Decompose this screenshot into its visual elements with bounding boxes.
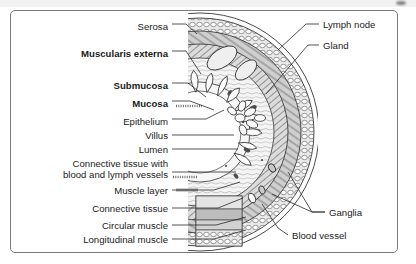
label-gland: Gland: [323, 40, 349, 51]
label-ganglia: Ganglia: [329, 207, 362, 218]
label-blood-vessel: Blood vessel: [292, 230, 346, 241]
label-muscle-layer: Muscle layer: [114, 185, 168, 196]
label-epithelium: Epithelium: [123, 116, 168, 127]
label-connective-tissue-vessels-line1: Connective tissue with: [73, 158, 168, 169]
label-submucosa: Submucosa: [114, 80, 168, 91]
lumen-area: [159, 91, 241, 173]
cutaway-panel: [196, 196, 242, 246]
label-longitudinal-muscle: Longitudinal muscle: [83, 234, 168, 245]
label-lumen: Lumen: [139, 144, 168, 155]
label-connective-tissue: Connective tissue: [92, 203, 168, 214]
label-connective-tissue-vessels-line2: blood and lymph vessels: [63, 169, 168, 180]
label-serosa: Serosa: [138, 21, 168, 32]
figure-intestine-cross-section: Serosa Muscularis externa Submucosa Muco…: [0, 0, 416, 264]
illustration-canvas: [0, 0, 416, 264]
label-lymph-node: Lymph node: [323, 19, 375, 30]
leader-lymph-node: [278, 24, 319, 50]
label-muscularis-externa: Muscularis externa: [81, 48, 168, 59]
label-circular-muscle: Circular muscle: [102, 220, 168, 231]
label-mucosa: Mucosa: [132, 98, 168, 109]
label-villus: Villus: [145, 130, 168, 141]
